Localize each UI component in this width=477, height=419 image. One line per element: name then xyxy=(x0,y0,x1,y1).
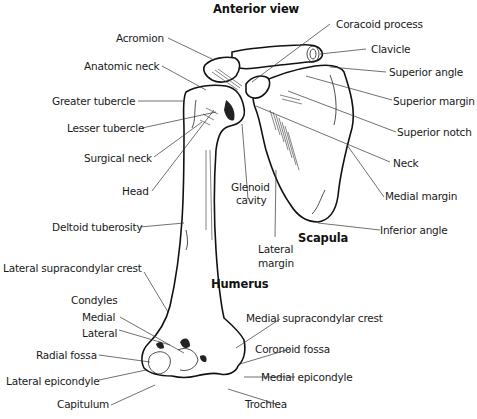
section-title-humerus: Humerus xyxy=(211,277,269,291)
section-title-scapula: Scapula xyxy=(298,231,348,245)
label-lateral-epicondyle: Lateral epicondyle xyxy=(6,375,99,387)
label-medial-epicondyle: Medial epicondyle xyxy=(261,371,353,383)
label-superior-margin: Superior margin xyxy=(393,95,475,107)
label-capitulum: Capitulum xyxy=(57,398,109,410)
label-lateral-margin-line2: margin xyxy=(258,257,294,269)
label-lateral-supracondylar-crest: Lateral supracondylar crest xyxy=(3,262,142,274)
label-condyle-medial: Medial xyxy=(82,311,115,323)
label-coracoid-process: Coracoid process xyxy=(336,18,423,30)
label-condyles: Condyles xyxy=(71,294,118,306)
label-head: Head xyxy=(122,185,149,197)
label-superior-angle: Superior angle xyxy=(389,66,463,78)
label-clavicle: Clavicle xyxy=(371,43,410,55)
label-coronoid-fossa: Coronoid fossa xyxy=(255,343,330,355)
label-inferior-angle: Inferior angle xyxy=(380,224,448,236)
label-radial-fossa: Radial fossa xyxy=(36,349,97,361)
label-acromion: Acromion xyxy=(116,32,164,44)
label-neck: Neck xyxy=(393,157,418,169)
diagram-title: Anterior view xyxy=(213,2,299,16)
label-superior-notch: Superior notch xyxy=(397,126,472,138)
label-medial-supracondylar-crest: Medial supracondylar crest xyxy=(246,312,383,324)
label-lateral-margin-line1: Lateral xyxy=(258,243,293,255)
anatomy-diagram: Anterior view Acromion Anatomic neck Gre… xyxy=(0,0,477,419)
label-glenoid-cavity-line1: Glenoid xyxy=(231,181,270,193)
acromion-shape xyxy=(204,57,240,82)
label-medial-margin: Medial margin xyxy=(385,190,457,202)
humerus-shape xyxy=(142,85,245,377)
label-greater-tubercle: Greater tubercle xyxy=(52,95,135,107)
label-trochlea: Trochlea xyxy=(245,398,287,410)
label-deltoid-tuberosity: Deltoid tuberosity xyxy=(52,221,142,233)
label-glenoid-cavity-line2: cavity xyxy=(236,194,266,206)
label-condyle-lateral: Lateral xyxy=(82,327,117,339)
label-lesser-tubercle: Lesser tubercle xyxy=(67,122,144,134)
label-anatomic-neck: Anatomic neck xyxy=(84,60,159,72)
label-surgical-neck: Surgical neck xyxy=(84,152,152,164)
